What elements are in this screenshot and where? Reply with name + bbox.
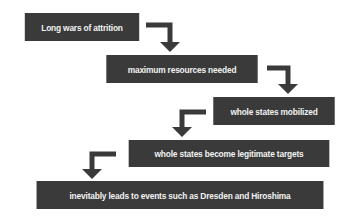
arrow-down-icon: [146, 25, 180, 52]
step-1-label: Long wars of attrition: [41, 22, 123, 33]
step-3-box: whole states mobilized: [213, 97, 334, 125]
arrow-down-icon: [82, 154, 116, 179]
step-1-box: Long wars of attrition: [25, 13, 139, 41]
step-5-label: inevitably leads to events such as Dresd…: [69, 190, 290, 201]
step-5-box: inevitably leads to events such as Dresd…: [37, 181, 324, 209]
step-3-label: whole states mobilized: [230, 106, 317, 117]
step-2-label: maximum resources needed: [128, 64, 237, 75]
step-2-box: maximum resources needed: [106, 55, 257, 83]
arrow-down-icon: [172, 112, 206, 137]
arrow-down-icon: [267, 68, 298, 94]
step-4-label: whole states become legitimate targets: [155, 148, 304, 159]
step-4-box: whole states become legitimate targets: [129, 140, 330, 167]
